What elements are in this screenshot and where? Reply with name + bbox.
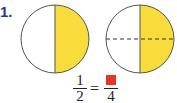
numerator: 1: [73, 74, 87, 87]
circle-quarters: [106, 5, 174, 73]
fraction-one-half: 1 2: [73, 74, 87, 103]
answer-blank[interactable]: [104, 74, 118, 87]
denominator: 2: [73, 90, 87, 103]
fraction-unknown-fourths: 4: [104, 74, 118, 103]
denominator: 4: [104, 90, 118, 103]
equals-sign: =: [90, 80, 99, 98]
circle-halves: [21, 5, 89, 73]
fraction-circles: [0, 0, 177, 103]
